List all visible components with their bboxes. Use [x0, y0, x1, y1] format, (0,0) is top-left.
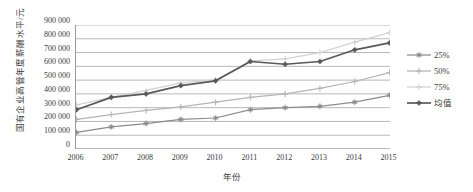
data-point-marker [416, 84, 422, 90]
data-point-marker [178, 104, 184, 110]
y-tick-label: 500 000 [44, 72, 70, 80]
legend-label: 25% [434, 51, 450, 60]
y-tick-label: 700 000 [44, 45, 70, 53]
x-tick-label: 2013 [311, 153, 327, 162]
y-axis-tick-labels: 900 000800 000700 000600 000500 000400 0… [26, 21, 70, 149]
data-point-marker [317, 59, 322, 64]
y-tick-label: 200 000 [44, 113, 70, 121]
y-axis-title: 国有企业高管年度薪酬水平/元 [13, 0, 25, 145]
x-tick-label: 2012 [276, 153, 292, 162]
legend-item-50pct[interactable]: 50% [406, 63, 470, 79]
x-axis-title-wrap: 年份 [75, 166, 389, 184]
data-point-marker [282, 56, 288, 62]
data-point-marker [352, 78, 358, 84]
y-tick-label: 400 000 [44, 86, 70, 94]
x-tick-label: 2014 [346, 153, 362, 162]
data-point-marker [143, 91, 148, 96]
legend-swatch-icon [406, 49, 432, 61]
y-tick-label: 600 000 [44, 58, 70, 66]
x-tick-label: 2006 [68, 153, 84, 162]
y-tick-label: 900 000 [44, 17, 70, 25]
legend-item-均值[interactable]: 均值 [406, 95, 470, 111]
data-point-marker [352, 39, 358, 45]
legend-item-75pct[interactable]: 75% [406, 79, 470, 95]
data-point-marker [108, 112, 114, 118]
data-point-marker [317, 85, 323, 91]
legend-item-25pct[interactable]: 25% [406, 47, 470, 63]
plot-area [75, 25, 390, 149]
y-tick-label: 800 000 [44, 31, 70, 39]
x-tick-label: 2009 [172, 153, 188, 162]
legend-swatch-icon [406, 81, 432, 93]
data-point-marker [416, 68, 422, 74]
x-axis-title: 年份 [223, 172, 242, 182]
x-tick-label: 2008 [137, 153, 153, 162]
x-tick-label: 2007 [102, 153, 118, 162]
data-point-marker [352, 47, 357, 52]
y-tick-label: 0 [66, 141, 70, 149]
legend-label: 75% [434, 83, 450, 92]
x-axis-tick-labels: 2006200720082009201020112012201320142015 [75, 153, 389, 165]
series-25pct [76, 92, 390, 135]
data-point-marker [387, 70, 391, 76]
y-tick-label: 100 000 [44, 127, 70, 135]
data-point-marker [109, 95, 114, 100]
chart-legend: 25%50%75%均值 [406, 47, 470, 111]
data-point-marker [387, 30, 391, 36]
data-point-marker [416, 100, 421, 105]
data-point-marker [143, 107, 149, 113]
series-line [77, 95, 390, 132]
chart-svg [76, 25, 390, 149]
legend-label: 均值 [434, 99, 452, 108]
data-point-marker [213, 99, 219, 105]
series-均值 [76, 40, 390, 112]
y-tick-label: 300 000 [44, 100, 70, 108]
x-tick-label: 2011 [242, 153, 258, 162]
legend-swatch-icon [406, 65, 432, 77]
data-point-marker [387, 40, 390, 45]
legend-swatch-icon [406, 97, 432, 109]
x-tick-label: 2015 [381, 153, 397, 162]
legend-label: 50% [434, 67, 450, 76]
data-point-marker [317, 50, 323, 56]
data-point-marker [282, 91, 288, 97]
data-point-marker [247, 94, 253, 100]
chart-container: 国有企业高管年度薪酬水平/元 900 000800 000700 000600 … [0, 0, 473, 192]
x-tick-label: 2010 [207, 153, 223, 162]
